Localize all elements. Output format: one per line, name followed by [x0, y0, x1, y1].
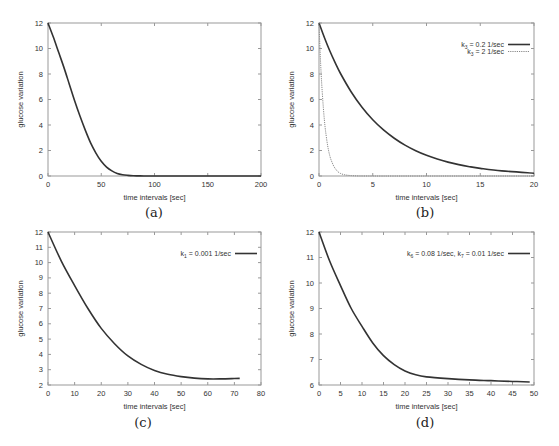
y-tick-label: 12	[306, 228, 314, 237]
legend-label: k1 = 0.001 1/sec	[181, 250, 232, 259]
caption-b: (b)	[405, 205, 445, 220]
x-tick-label: 0	[317, 180, 321, 189]
y-tick-label: 11	[35, 243, 43, 252]
y-tick-label: 9	[39, 273, 43, 282]
y-tick-label: 11	[306, 253, 314, 262]
chart-a: 050100150200024681012time intervals [sec…	[0, 0, 280, 223]
y-axis-label: glucose variation	[287, 280, 296, 336]
x-tick-label: 10	[422, 180, 430, 189]
y-axis-label: glucose variation	[287, 71, 296, 127]
legend-label: k6 = 0.08 1/sec, k7 = 0.01 1/sec	[407, 250, 505, 259]
caption-d: (d)	[405, 415, 445, 430]
y-tick-label: 9	[310, 304, 314, 313]
x-tick-label: 5	[338, 389, 342, 398]
x-tick-label: 40	[150, 389, 158, 398]
chart-panel-c: 0102030405060708023456789101112time inte…	[0, 223, 280, 446]
chart-panel-a: 050100150200024681012time intervals [sec…	[0, 0, 280, 223]
x-axis-label: time intervals [sec]	[123, 193, 185, 202]
y-tick-label: 0	[310, 172, 314, 181]
x-tick-label: 20	[401, 389, 409, 398]
x-tick-label: 40	[487, 389, 495, 398]
y-tick-label: 7	[39, 304, 43, 313]
legend-label: k3 = 2 1/sec	[467, 48, 504, 57]
y-tick-label: 10	[306, 44, 314, 53]
y-tick-label: 12	[306, 19, 314, 28]
x-tick-label: 15	[379, 389, 387, 398]
x-axis-label: time intervals [sec]	[395, 193, 457, 202]
y-tick-label: 8	[310, 70, 314, 79]
chart-d: 051015202530354045506789101112time inter…	[280, 223, 559, 446]
x-tick-label: 45	[508, 389, 516, 398]
x-tick-label: 70	[230, 389, 238, 398]
x-tick-label: 25	[422, 389, 430, 398]
y-tick-label: 10	[35, 44, 43, 53]
x-tick-label: 20	[97, 389, 105, 398]
x-tick-label: 20	[530, 180, 538, 189]
x-tick-label: 0	[46, 180, 50, 189]
y-tick-label: 6	[39, 319, 43, 328]
chart-c: 0102030405060708023456789101112time inte…	[0, 223, 280, 446]
x-tick-label: 80	[257, 389, 265, 398]
x-tick-label: 35	[465, 389, 473, 398]
y-tick-label: 2	[39, 381, 43, 390]
x-tick-label: 30	[444, 389, 452, 398]
y-tick-label: 8	[310, 330, 314, 339]
y-tick-label: 3	[39, 365, 43, 374]
chart-panel-b: 05101520024681012time intervals [sec]glu…	[280, 0, 559, 223]
caption-c: (c)	[123, 415, 163, 430]
y-tick-label: 12	[35, 228, 43, 237]
y-tick-label: 6	[310, 95, 314, 104]
x-tick-label: 10	[70, 389, 78, 398]
x-tick-label: 50	[177, 389, 185, 398]
y-tick-label: 10	[306, 279, 314, 288]
series-line	[48, 23, 261, 176]
x-tick-label: 200	[255, 180, 268, 189]
y-tick-label: 4	[310, 121, 314, 130]
y-tick-label: 12	[35, 19, 43, 28]
x-tick-label: 150	[201, 180, 214, 189]
y-tick-label: 10	[35, 258, 43, 267]
x-tick-label: 15	[476, 180, 484, 189]
chart-b: 05101520024681012time intervals [sec]glu…	[280, 0, 559, 223]
y-tick-label: 6	[39, 95, 43, 104]
y-tick-label: 4	[39, 121, 43, 130]
caption-a: (a)	[134, 205, 174, 220]
y-tick-label: 7	[310, 355, 314, 364]
x-tick-label: 50	[530, 389, 538, 398]
x-tick-label: 60	[204, 389, 212, 398]
y-tick-label: 2	[39, 146, 43, 155]
y-axis-label: glucose variation	[16, 71, 25, 127]
x-tick-label: 100	[148, 180, 161, 189]
y-tick-label: 8	[39, 289, 43, 298]
plot-frame	[48, 23, 261, 176]
x-axis-label: time intervals [sec]	[123, 402, 185, 411]
y-tick-label: 0	[39, 172, 43, 181]
x-axis-label: time intervals [sec]	[395, 402, 457, 411]
y-tick-label: 4	[39, 350, 43, 359]
x-tick-label: 30	[124, 389, 132, 398]
y-tick-label: 6	[310, 381, 314, 390]
x-tick-label: 0	[46, 389, 50, 398]
y-tick-label: 8	[39, 70, 43, 79]
y-tick-label: 5	[39, 335, 43, 344]
x-tick-label: 5	[371, 180, 375, 189]
x-tick-label: 10	[358, 389, 366, 398]
x-tick-label: 50	[97, 180, 105, 189]
y-tick-label: 2	[310, 146, 314, 155]
y-axis-label: glucose variation	[16, 280, 25, 336]
x-tick-label: 0	[317, 389, 321, 398]
chart-panel-d: 051015202530354045506789101112time inter…	[280, 223, 559, 446]
